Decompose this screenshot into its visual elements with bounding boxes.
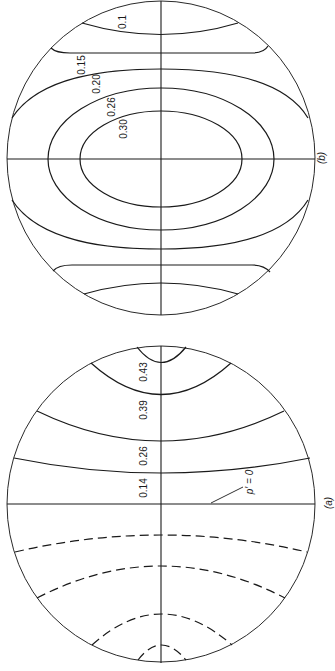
panel-a-label-0.39: 0.39 xyxy=(138,400,149,420)
panel-a-label-0.43: 0.43 xyxy=(138,362,149,382)
panel-b-caption: (b) xyxy=(316,152,327,164)
contour-figure: 0.1 0.15 0.20 0.26 0.30 (b) 0.43 0.39 0.… xyxy=(0,0,335,671)
panel-a-caption: (a) xyxy=(323,497,334,509)
panel-b-label-0.15: 0.15 xyxy=(76,55,87,75)
panel-b: 0.1 0.15 0.20 0.26 0.30 (b) xyxy=(7,1,327,315)
panel-b-contour-0.1-top xyxy=(82,23,238,35)
panel-b-label-0.30: 0.30 xyxy=(118,119,129,139)
panel-a-contour-0.14 xyxy=(14,458,310,473)
panel-a-dashed-contour-4 xyxy=(138,645,186,660)
panel-a-dashed-contour-3 xyxy=(92,614,232,645)
panel-a-label-0.14: 0.14 xyxy=(138,478,149,498)
panel-a: 0.43 0.39 0.26 0.14 p′ = 0 (a) xyxy=(7,346,334,663)
panel-b-contour-0.15-top xyxy=(51,46,268,53)
panel-a-zero-leader-line xyxy=(211,487,243,503)
panel-a-zero-label: p′ = 0 xyxy=(244,469,255,495)
panel-b-label-0.1: 0.1 xyxy=(117,15,128,29)
panel-a-label-0.26: 0.26 xyxy=(138,446,149,466)
panel-b-label-0.20: 0.20 xyxy=(91,74,102,94)
panel-b-label-0.26: 0.26 xyxy=(106,97,117,117)
